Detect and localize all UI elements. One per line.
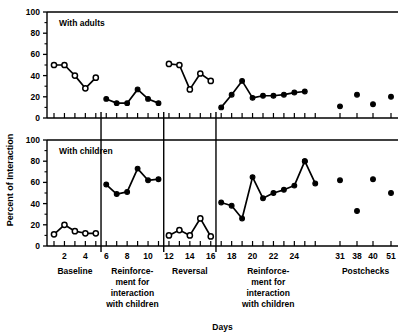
lower-data-point xyxy=(114,192,119,197)
xtick-label-day-40: 40 xyxy=(368,251,378,261)
lower-data-point xyxy=(261,196,266,201)
lower-data-point xyxy=(271,191,276,196)
upper-data-point xyxy=(208,78,213,83)
x-axis-title: Days xyxy=(212,322,233,332)
phase-label-reinforcement-1: ment for xyxy=(115,277,150,287)
lower-data-point xyxy=(355,209,360,214)
upper-data-point xyxy=(198,71,203,76)
figure-root: 0204060801000204060801002468101214161820… xyxy=(0,0,406,334)
xtick-label-day-14: 14 xyxy=(185,251,195,261)
lower-data-point xyxy=(313,181,318,186)
lower-data-point xyxy=(146,178,151,183)
phase-label-reinforcement-2: interaction xyxy=(246,288,289,298)
lower-panel-ytick-label-60: 60 xyxy=(31,177,41,187)
upper-data-point xyxy=(51,62,56,67)
lower-data-point xyxy=(166,233,171,238)
xtick-label-day-8: 8 xyxy=(125,251,130,261)
upper-panel-ytick-label-80: 80 xyxy=(31,28,41,38)
xtick-label-day-20: 20 xyxy=(248,251,258,261)
lower-data-point xyxy=(62,222,67,227)
upper-data-point xyxy=(146,97,151,102)
lower-data-point xyxy=(389,191,394,196)
lower-data-point xyxy=(282,187,287,192)
upper-data-point xyxy=(302,89,307,94)
phase-label-reinforcement-2: with children xyxy=(241,299,294,309)
lower-data-point xyxy=(250,175,255,180)
lower-data-point xyxy=(51,232,56,237)
upper-data-point xyxy=(187,87,192,92)
lower-panel-ytick-label-0: 0 xyxy=(35,241,40,251)
lower-data-point xyxy=(177,228,182,233)
upper-data-point xyxy=(229,92,234,97)
phase-label-reinforcement-2: Reinforce- xyxy=(247,266,289,276)
lower-data-point xyxy=(72,229,77,234)
xtick-label-day-31: 31 xyxy=(335,251,345,261)
lower-panel-ytick-label-40: 40 xyxy=(31,199,41,209)
lower-data-point xyxy=(219,200,224,205)
upper-data-point xyxy=(261,93,266,98)
upper-data-point xyxy=(371,102,376,107)
lower-series-line-4 xyxy=(305,161,315,183)
phase-label-reinforcement-1: with children xyxy=(105,299,158,309)
upper-panel-ytick-label-40: 40 xyxy=(31,71,41,81)
upper-data-point xyxy=(72,73,77,78)
upper-data-point xyxy=(83,86,88,91)
lower-panel-ytick-label-20: 20 xyxy=(31,220,41,230)
upper-data-point xyxy=(250,95,255,100)
chart-svg: 0204060801000204060801002468101214161820… xyxy=(0,0,406,334)
phase-label-reversal: Reversal xyxy=(172,266,207,276)
upper-data-point xyxy=(166,61,171,66)
upper-data-point xyxy=(104,97,109,102)
lower-series-line-3 xyxy=(221,161,305,218)
upper-series-line-2 xyxy=(169,64,211,89)
upper-data-point xyxy=(62,62,67,67)
lower-data-point xyxy=(371,177,376,182)
upper-data-point xyxy=(219,105,224,110)
upper-data-point xyxy=(389,94,394,99)
lower-data-point xyxy=(208,234,213,239)
lower-data-point xyxy=(302,159,307,164)
upper-data-point xyxy=(338,104,343,109)
xtick-label-day-18: 18 xyxy=(227,251,237,261)
upper-data-point xyxy=(135,87,140,92)
xtick-label-day-22: 22 xyxy=(269,251,279,261)
upper-panel-label: With adults xyxy=(59,18,105,28)
upper-data-point xyxy=(292,90,297,95)
lower-data-point xyxy=(104,182,109,187)
lower-panel-label: With children xyxy=(59,146,113,156)
upper-data-point xyxy=(282,92,287,97)
xtick-label-day-24: 24 xyxy=(290,251,300,261)
lower-data-point xyxy=(93,231,98,236)
lower-data-point xyxy=(229,203,234,208)
upper-data-point xyxy=(177,62,182,67)
xtick-label-day-4: 4 xyxy=(83,251,88,261)
lower-data-point xyxy=(240,216,245,221)
xtick-label-day-2: 2 xyxy=(62,251,67,261)
lower-data-point xyxy=(198,216,203,221)
lower-data-point xyxy=(338,178,343,183)
lower-panel-ytick-label-100: 100 xyxy=(26,135,40,145)
lower-data-point xyxy=(135,166,140,171)
upper-data-point xyxy=(355,92,360,97)
phase-label-reinforcement-2: ment for xyxy=(251,277,286,287)
phase-label-reinforcement-1: interaction xyxy=(111,288,154,298)
xtick-label-day-38: 38 xyxy=(352,251,362,261)
lower-data-point xyxy=(125,190,130,195)
xtick-label-day-10: 10 xyxy=(143,251,153,261)
upper-data-point xyxy=(125,101,130,106)
lower-data-point xyxy=(187,233,192,238)
upper-data-point xyxy=(93,75,98,80)
xtick-label-day-6: 6 xyxy=(104,251,109,261)
upper-data-point xyxy=(114,101,119,106)
upper-panel-ytick-label-20: 20 xyxy=(31,92,41,102)
lower-data-point xyxy=(83,231,88,236)
xtick-label-day-51: 51 xyxy=(386,251,396,261)
phase-label-postchecks: Postchecks xyxy=(342,266,390,276)
upper-data-point xyxy=(240,79,245,84)
lower-data-point xyxy=(292,183,297,188)
upper-panel-ytick-label-60: 60 xyxy=(31,49,41,59)
y-axis-title: Percent of Interaction xyxy=(5,134,15,227)
phase-label-reinforcement-1: Reinforce- xyxy=(111,266,153,276)
upper-data-point xyxy=(156,101,161,106)
upper-panel-ytick-label-100: 100 xyxy=(26,7,40,17)
